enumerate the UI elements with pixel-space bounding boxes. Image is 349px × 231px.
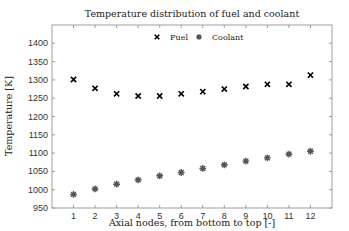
fuel-marker [200, 89, 205, 94]
coolant-marker-core [266, 156, 270, 160]
y-tick-label: 1250 [28, 93, 48, 103]
coolant-marker-core [309, 149, 313, 153]
coolant-marker-core [179, 171, 183, 175]
legend-fuel-marker [155, 35, 160, 40]
fuel-marker [222, 86, 227, 91]
series-coolant [70, 148, 314, 198]
fuel-marker [308, 73, 313, 78]
y-tick-label: 1000 [28, 185, 48, 195]
coolant-marker-core [287, 152, 291, 156]
coolant-marker-core [223, 163, 227, 167]
coolant-marker-core [136, 178, 140, 182]
x-axis-label: Axial nodes, from bottom to top [-] [108, 217, 275, 228]
fuel-marker [179, 91, 184, 96]
fuel-marker [136, 93, 141, 98]
chart: Temperature distribution of fuel and coo… [0, 0, 349, 231]
fuel-marker [265, 82, 270, 87]
y-tick-label: 1350 [28, 57, 48, 67]
x-tick-label: 2 [93, 211, 98, 221]
y-axis: 950100010501100115012001250130013501400 [28, 38, 332, 213]
coolant-marker-core [115, 182, 119, 186]
y-tick-label: 1200 [28, 112, 48, 122]
plot-area [52, 25, 332, 208]
series-layer [70, 73, 314, 198]
y-tick-label: 1150 [29, 130, 48, 140]
coolant-marker-core [244, 159, 248, 163]
fuel-marker [243, 84, 248, 89]
y-tick-label: 950 [33, 203, 48, 213]
legend-coolant-label: Coolant [212, 33, 244, 42]
x-tick-label: 12 [305, 211, 315, 221]
legend: FuelCoolant [155, 33, 245, 42]
y-tick-label: 1050 [28, 166, 48, 176]
coolant-marker-core [72, 193, 76, 197]
y-tick-label: 1100 [29, 148, 48, 158]
y-tick-label: 1300 [28, 75, 48, 85]
chart-title: Temperature distribution of fuel and coo… [85, 8, 300, 19]
series-fuel [71, 73, 313, 99]
coolant-marker-core [201, 167, 205, 171]
y-tick-label: 1400 [28, 38, 48, 48]
legend-fuel-label: Fuel [170, 33, 188, 42]
x-tick-label: 1 [71, 211, 76, 221]
fuel-marker [157, 93, 162, 98]
y-axis-label: Temperature [K] [3, 76, 14, 156]
x-tick-label: 11 [284, 211, 293, 221]
x-axis: 123456789101112 [71, 25, 315, 221]
coolant-marker-core [158, 174, 162, 178]
fuel-marker [92, 86, 97, 91]
coolant-marker-core [93, 187, 97, 191]
fuel-marker [71, 77, 76, 82]
fuel-marker [286, 82, 291, 87]
fuel-marker [114, 91, 119, 96]
legend-coolant-marker-core [197, 35, 201, 39]
